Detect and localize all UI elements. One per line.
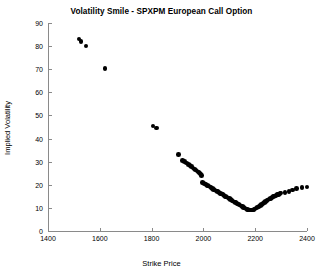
y-tick-mark — [49, 185, 52, 186]
data-point — [84, 44, 89, 49]
data-point — [176, 152, 181, 157]
x-axis-title: Strike Price — [0, 259, 323, 268]
y-tick-label: 50 — [35, 112, 43, 119]
y-tick-label: 80 — [35, 43, 43, 50]
x-tick-label: 2400 — [299, 235, 315, 242]
y-tick-label: 30 — [35, 158, 43, 165]
y-axis-title: Implied Volatility — [3, 101, 12, 155]
y-tick-label: 70 — [35, 66, 43, 73]
y-tick-label: 20 — [35, 181, 43, 188]
y-tick-label: 60 — [35, 89, 43, 96]
data-point — [199, 173, 204, 178]
y-tick-mark — [49, 23, 52, 24]
x-tick-label: 1600 — [92, 235, 108, 242]
y-tick-label: 0 — [39, 228, 43, 235]
y-tick-mark — [49, 69, 52, 70]
y-tick-label: 10 — [35, 204, 43, 211]
y-tick-label: 40 — [35, 135, 43, 142]
x-tick-label: 1400 — [40, 235, 56, 242]
y-tick-mark — [49, 115, 52, 116]
y-tick-mark — [49, 46, 52, 47]
chart-figure: Volatility Smile - SPXPM European Call O… — [0, 0, 323, 280]
chart-title: Volatility Smile - SPXPM European Call O… — [0, 7, 323, 16]
x-tick-label: 2200 — [247, 235, 263, 242]
x-tick-label: 2000 — [196, 235, 212, 242]
x-tick-mark — [100, 228, 101, 231]
y-tick-mark — [49, 231, 52, 232]
x-tick-mark — [203, 228, 204, 231]
y-tick-mark — [49, 92, 52, 93]
data-point — [79, 39, 84, 44]
x-tick-mark — [152, 228, 153, 231]
y-tick-mark — [49, 208, 52, 209]
x-tick-mark — [255, 228, 256, 231]
data-point — [305, 185, 310, 190]
plot-area: 0102030405060708090 14001600180020002200… — [48, 23, 307, 232]
x-tick-label: 1800 — [144, 235, 160, 242]
x-axis-line — [48, 231, 307, 232]
data-point — [294, 186, 299, 191]
data-point — [103, 66, 108, 71]
data-point — [154, 126, 159, 131]
data-point — [300, 185, 305, 190]
x-tick-mark — [48, 228, 49, 231]
y-tick-mark — [49, 139, 52, 140]
y-axis-title-container: Implied Volatility — [13, 23, 27, 232]
y-tick-mark — [49, 162, 52, 163]
y-axis-line — [48, 23, 49, 232]
x-tick-mark — [307, 228, 308, 231]
y-tick-label: 90 — [35, 20, 43, 27]
